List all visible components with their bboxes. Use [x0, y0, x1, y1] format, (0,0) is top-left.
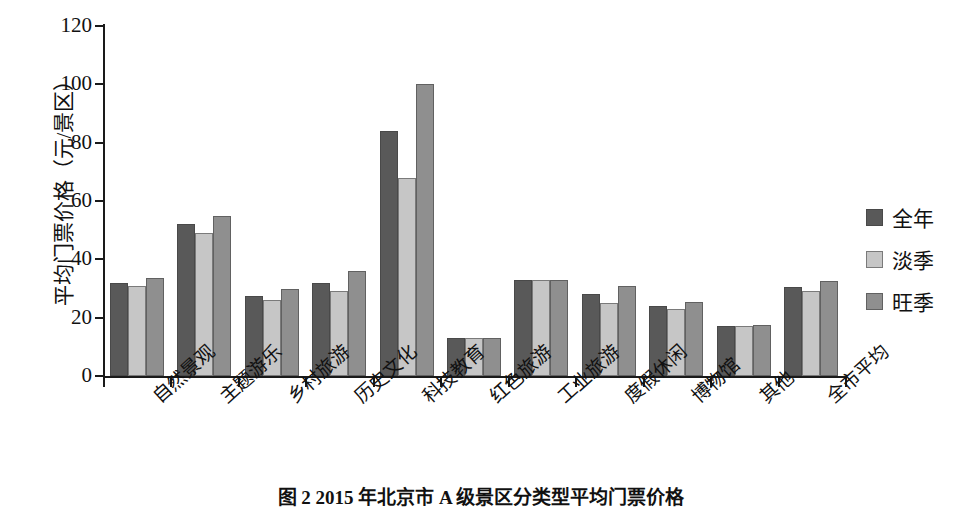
bar [820, 281, 838, 376]
legend-item-label: 旺季 [892, 286, 934, 316]
figure-caption: 图 2 2015 年北京市 A 级景区分类型平均门票价格 [0, 482, 962, 509]
bar [685, 302, 703, 376]
bar-group [238, 26, 305, 376]
bar-group [305, 26, 372, 376]
bar-group [778, 26, 845, 376]
bar [380, 131, 398, 376]
bar-group [643, 26, 710, 376]
x-axis-tick [103, 378, 105, 387]
bar-group [103, 26, 170, 376]
bar-group [508, 26, 575, 376]
legend-item[interactable]: 全年 [866, 196, 962, 238]
legend-item-label: 淡季 [892, 244, 934, 274]
bar [802, 291, 820, 376]
y-axis-tick-label: 20 [46, 307, 92, 328]
y-axis-tick-labels: 020406080100120 [40, 0, 92, 400]
bar-group [373, 26, 440, 376]
bar [618, 286, 636, 376]
bar [784, 287, 802, 376]
y-axis-tick-label: 100 [46, 73, 92, 94]
bar [281, 289, 299, 377]
bar [110, 283, 128, 376]
dark-gray-swatch [866, 209, 883, 226]
light-gray-swatch [866, 251, 883, 268]
y-axis-tick-label: 0 [46, 365, 92, 386]
bar [416, 84, 434, 376]
bar [146, 278, 164, 376]
medium-gray-swatch [866, 293, 883, 310]
bar [213, 216, 231, 376]
bar-group [440, 26, 507, 376]
legend-item-label: 全年 [892, 202, 934, 232]
bar-group [170, 26, 237, 376]
bar-group [575, 26, 642, 376]
bar [550, 280, 568, 376]
legend-item[interactable]: 旺季 [866, 280, 962, 322]
legend: 全年淡季旺季 [866, 196, 962, 322]
y-axis-tick-label: 120 [46, 15, 92, 36]
bar-group [710, 26, 777, 376]
y-axis-tick-label: 80 [46, 132, 92, 153]
bar [128, 286, 146, 376]
y-axis-tick-label: 60 [46, 190, 92, 211]
plot-area [103, 26, 845, 376]
legend-item[interactable]: 淡季 [866, 238, 962, 280]
bar [753, 325, 771, 376]
y-axis-tick-label: 40 [46, 248, 92, 269]
